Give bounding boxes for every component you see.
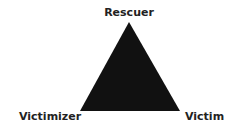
victimizer-label: Victimizer [19,111,81,123]
victim-label: Victim [185,111,224,123]
triangle-shape [80,22,180,111]
rescuer-label: Rescuer [104,7,154,19]
